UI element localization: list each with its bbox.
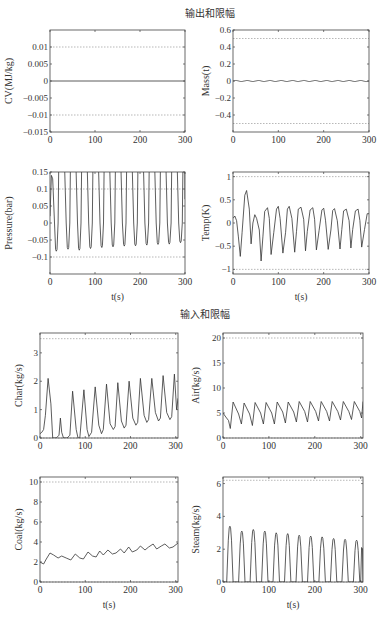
x-tick-label: 0 (38, 441, 43, 451)
y-tick-label: 0 (44, 218, 49, 228)
axes-frame (40, 477, 178, 582)
y-tick-label: −0.015 (23, 127, 49, 137)
y-tick-label: 8 (34, 497, 39, 507)
y-tick-label: 0 (227, 76, 232, 86)
subplot-coal: 01002003000246810Coal(kg/s)t(s) (13, 477, 183, 611)
y-tick-label: 15 (212, 358, 222, 368)
x-axis-label: t(s) (287, 600, 300, 611)
y-tick-label: 0 (227, 218, 232, 228)
y-tick-label: 0 (217, 433, 222, 443)
subplot-mass: 0100200300−0.4−0.200.20.40.6Mass(t) (200, 25, 376, 145)
x-tick-label: 300 (178, 135, 193, 145)
y-tick-label: −0.5 (215, 241, 232, 251)
y-tick-label: 3 (34, 348, 39, 358)
y-tick-label: 0.15 (32, 167, 48, 177)
axes-frame (233, 172, 369, 274)
y-tick-label: 4 (34, 537, 39, 547)
figure-caption-faded (60, 612, 320, 620)
y-tick-label: 2 (34, 557, 39, 567)
y-tick-label: 0.05 (32, 201, 48, 211)
y-tick-label: 0 (34, 433, 39, 443)
x-tick-label: 0 (38, 585, 43, 595)
x-tick-label: 300 (354, 585, 369, 595)
x-tick-label: 0 (221, 585, 226, 595)
y-axis-label: Char(kg/s) (13, 364, 25, 407)
x-tick-label: 200 (317, 135, 332, 145)
y-tick-label: 0 (34, 577, 39, 587)
y-tick-label: 0 (44, 76, 49, 86)
x-tick-label: 100 (78, 585, 93, 595)
data-line (50, 19, 185, 251)
y-tick-label: −0.4 (215, 110, 232, 120)
y-axis-label: Temp(K) (200, 205, 212, 242)
x-tick-label: 100 (271, 135, 286, 145)
x-tick-label: 200 (308, 585, 323, 595)
y-tick-label: 0.005 (28, 59, 49, 69)
x-tick-label: 100 (88, 277, 103, 287)
data-line (223, 402, 363, 429)
x-tick-label: 100 (88, 135, 103, 145)
x-tick-label: 300 (178, 277, 193, 287)
y-tick-label: 0.1 (37, 184, 48, 194)
subplot-steam: 01002003000246Steam(kg/s)t(s) (190, 477, 368, 611)
subplot-char: 01002003000123Char(kg/s) (13, 333, 183, 451)
y-tick-label: 6 (34, 517, 39, 527)
x-tick-label: 100 (78, 441, 93, 451)
subplot-cv: 0100200300−0.015−0.01−0.00500.0050.01CV(… (3, 30, 192, 145)
x-tick-label: 0 (231, 135, 236, 145)
y-tick-label: −0.05 (27, 235, 48, 245)
x-tick-label: 200 (133, 135, 148, 145)
y-tick-label: −0.01 (27, 110, 48, 120)
x-tick-label: 100 (262, 441, 277, 451)
y-tick-label: 0.5 (220, 195, 232, 205)
x-tick-label: 100 (262, 585, 277, 595)
y-axis-label: CV(MJ/kg) (3, 58, 15, 104)
x-axis-label: t(s) (103, 600, 116, 611)
y-tick-label: −0.2 (215, 93, 231, 103)
y-tick-label: 1 (34, 405, 39, 415)
x-axis-label: t(s) (295, 292, 308, 303)
y-tick-label: 10 (29, 477, 39, 487)
x-tick-label: 300 (362, 277, 377, 287)
y-axis-label: Coal(kg/s) (13, 508, 25, 550)
y-tick-label: −1 (221, 264, 231, 274)
y-tick-label: 20 (212, 333, 222, 343)
x-tick-label: 0 (221, 441, 226, 451)
y-tick-label: 10 (212, 383, 222, 393)
x-tick-label: 200 (317, 277, 332, 287)
data-line (223, 526, 363, 582)
y-tick-label: 0 (217, 577, 222, 587)
data-line (233, 81, 369, 82)
y-axis-label: Air(kg/s) (190, 367, 202, 404)
data-line (233, 191, 369, 262)
y-tick-label: 2 (34, 376, 39, 386)
y-tick-label: 0.6 (220, 25, 232, 35)
data-line (40, 543, 178, 564)
x-tick-label: 0 (48, 277, 53, 287)
subplot-air: 010020030005101520Air(kg/s) (190, 333, 368, 451)
y-tick-label: 4 (217, 511, 222, 521)
y-tick-label: 0.01 (32, 42, 48, 52)
figure-canvas: 0100200300−0.015−0.01−0.00500.0050.01CV(… (0, 0, 379, 622)
y-tick-label: 5 (217, 408, 222, 418)
y-tick-label: 6 (217, 479, 222, 489)
y-tick-label: −0.1 (32, 252, 48, 262)
x-tick-label: 300 (354, 441, 369, 451)
x-axis-label: t(s) (111, 292, 124, 303)
x-tick-label: 200 (308, 441, 323, 451)
x-tick-label: 200 (123, 585, 138, 595)
x-tick-label: 0 (48, 135, 53, 145)
y-tick-label: 0.4 (220, 42, 232, 52)
x-tick-label: 300 (169, 441, 184, 451)
axes-frame (223, 333, 363, 438)
data-line (40, 374, 178, 438)
y-axis-label: Mass(t) (200, 66, 212, 97)
x-tick-label: 300 (169, 585, 184, 595)
x-tick-label: 200 (123, 441, 138, 451)
y-tick-label: −0.005 (23, 93, 49, 103)
y-axis-label: Steam(kg/s) (190, 505, 202, 553)
x-tick-label: 200 (133, 277, 148, 287)
y-tick-label: 1 (227, 172, 232, 182)
x-tick-label: 0 (231, 277, 236, 287)
x-tick-label: 300 (362, 135, 377, 145)
